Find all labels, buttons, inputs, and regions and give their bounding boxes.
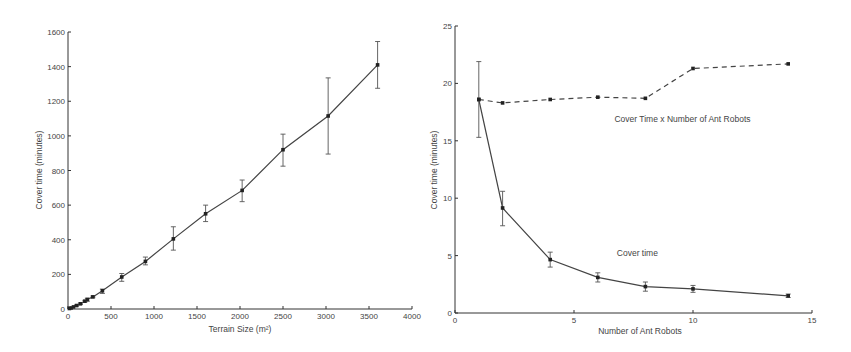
y-tick-label: 1600 (47, 28, 65, 37)
figure: 0500100015002000250030003500400002004006… (0, 0, 851, 352)
y-tick-label: 10 (443, 194, 452, 203)
data-point (120, 275, 124, 279)
x-tick-label: 3500 (360, 312, 378, 321)
data-point (548, 98, 552, 102)
x-tick-label: 10 (689, 316, 698, 325)
x-tick-label: 5 (572, 316, 577, 325)
data-point (326, 114, 330, 118)
data-point (477, 98, 481, 102)
ticks: 0510150510152025 (443, 22, 817, 325)
x-tick-label: 0 (453, 316, 458, 325)
x-tick-label: 15 (808, 316, 817, 325)
y-tick-label: 15 (443, 137, 452, 146)
y-tick-label: 0 (448, 309, 453, 318)
data-point (86, 298, 90, 302)
x-axis-label: Number of Ant Robots (598, 326, 682, 336)
data-point (79, 302, 83, 306)
data-point (501, 206, 505, 210)
y-tick-label: 1200 (47, 97, 65, 106)
y-tick-label: 5 (448, 252, 453, 261)
data-point (91, 295, 95, 299)
data-point (644, 285, 648, 289)
x-axis-label: Terrain Size (m²) (209, 324, 272, 334)
data-point (786, 62, 790, 66)
annotation: Cover time (617, 248, 658, 258)
data-point (644, 97, 648, 101)
annotation: Cover Time x Number of Ant Robots (614, 114, 750, 124)
x-tick-label: 4000 (403, 312, 421, 321)
chart-terrain-size: 0500100015002000250030003500400002004006… (34, 28, 421, 334)
annotations: Cover Time x Number of Ant RobotsCover t… (614, 114, 750, 257)
data-point (691, 67, 695, 71)
data-point (596, 276, 600, 280)
y-tick-label: 800 (52, 167, 66, 176)
y-tick-label: 400 (52, 236, 66, 245)
data-point (172, 237, 176, 241)
axes (68, 32, 412, 309)
data-point (691, 287, 695, 291)
y-tick-label: 25 (443, 22, 452, 31)
y-tick-label: 600 (52, 201, 66, 210)
y-axis-label: Cover time (minutes) (429, 130, 439, 209)
data-point (501, 101, 505, 105)
x-tick-label: 2500 (274, 312, 292, 321)
data-point (596, 95, 600, 99)
x-tick-label: 2000 (231, 312, 249, 321)
data-point (101, 289, 105, 293)
y-tick-label: 0 (61, 305, 66, 314)
data-point (72, 305, 76, 309)
series-cover-time (476, 62, 790, 298)
y-tick-label: 1400 (47, 63, 65, 72)
y-axis-label: Cover time (minutes) (34, 130, 44, 209)
data-point (144, 260, 148, 264)
series-cover-time-x-number-of-ant-robots (477, 62, 790, 105)
x-tick-label: 1000 (145, 312, 163, 321)
series (476, 62, 790, 298)
data-point (75, 304, 79, 308)
ticks: 0500100015002000250030003500400002004006… (47, 28, 421, 321)
y-tick-label: 20 (443, 79, 452, 88)
data-point (204, 212, 208, 216)
x-tick-label: 3000 (317, 312, 335, 321)
y-tick-label: 200 (52, 270, 66, 279)
x-tick-label: 1500 (188, 312, 206, 321)
data-point (376, 63, 380, 67)
x-tick-label: 500 (104, 312, 118, 321)
data-point (786, 294, 790, 298)
axes (455, 26, 812, 313)
x-tick-label: 0 (66, 312, 71, 321)
series (68, 42, 381, 311)
data-point (240, 189, 244, 193)
data-point (281, 148, 285, 152)
y-tick-label: 1000 (47, 132, 65, 141)
data-point (548, 258, 552, 262)
chart-number-of-robots: 0510150510152025 Cover Time x Number of … (429, 22, 817, 336)
series-cover-time (68, 42, 381, 311)
